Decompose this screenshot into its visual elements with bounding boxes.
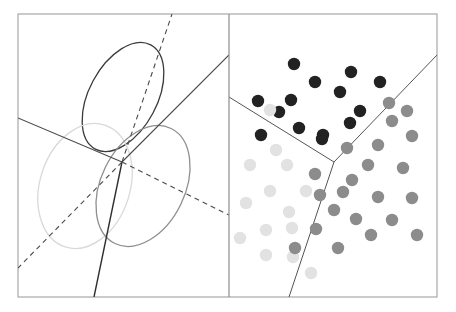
data-point-dark	[255, 129, 267, 141]
data-point-medium	[328, 204, 340, 216]
data-point-medium	[372, 139, 384, 151]
data-point-medium	[406, 192, 418, 204]
data-point-light	[234, 232, 246, 244]
data-point-medium	[350, 213, 362, 225]
data-point-dark	[293, 122, 305, 134]
data-point-light	[300, 185, 312, 197]
data-point-medium	[332, 242, 344, 254]
data-point-medium	[341, 142, 353, 154]
data-point-medium	[365, 229, 377, 241]
data-point-light	[260, 224, 272, 236]
data-point-light	[264, 104, 276, 116]
data-point-medium	[346, 174, 358, 186]
data-point-medium	[309, 168, 321, 180]
data-point-medium	[401, 105, 413, 117]
data-point-light	[264, 185, 276, 197]
data-point-dark	[345, 66, 357, 78]
data-point-medium	[383, 97, 395, 109]
data-point-light	[283, 206, 295, 218]
data-point-medium	[406, 130, 418, 142]
data-point-medium	[289, 242, 301, 254]
data-point-medium	[362, 159, 374, 171]
data-point-dark	[374, 76, 386, 88]
data-point-dark	[354, 105, 366, 117]
data-point-medium	[386, 115, 398, 127]
data-point-medium	[411, 229, 423, 241]
data-point-dark	[288, 58, 300, 70]
figure-canvas	[0, 0, 456, 312]
data-point-light	[244, 159, 256, 171]
data-point-dark	[285, 94, 297, 106]
data-point-dark	[316, 133, 328, 145]
data-point-medium	[310, 223, 322, 235]
figure-root	[0, 0, 456, 312]
data-point-medium	[337, 186, 349, 198]
data-point-light	[260, 249, 272, 261]
data-point-medium	[372, 191, 384, 203]
data-point-medium	[397, 162, 409, 174]
data-point-medium	[386, 214, 398, 226]
data-point-light	[281, 159, 293, 171]
data-point-dark	[344, 117, 356, 129]
data-point-dark	[334, 86, 346, 98]
data-point-dark	[309, 76, 321, 88]
data-point-medium	[314, 189, 326, 201]
data-point-light	[270, 144, 282, 156]
data-point-light	[240, 197, 252, 209]
data-point-light	[305, 267, 317, 279]
data-point-light	[286, 222, 298, 234]
data-point-dark	[252, 95, 264, 107]
